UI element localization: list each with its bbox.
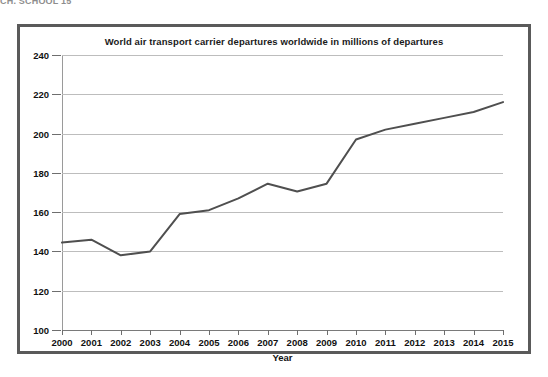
y-tick-160 — [52, 212, 61, 213]
y-axis-label-140: 140 — [33, 246, 49, 257]
series-line-departures — [62, 102, 503, 255]
y-tick-140 — [52, 251, 61, 252]
x-axis-label-2005: 2005 — [198, 337, 219, 348]
plot-area: 100120140160180200220240 200020012002200… — [62, 55, 503, 330]
x-axis-label-2002: 2002 — [110, 337, 131, 348]
x-axis-label-2003: 2003 — [140, 337, 161, 348]
y-tick-180 — [52, 173, 61, 174]
y-axis-label-160: 160 — [33, 207, 49, 218]
x-tick-2013 — [444, 330, 445, 335]
x-axis-label-2015: 2015 — [492, 337, 513, 348]
y-tick-240 — [52, 55, 61, 56]
y-tick-120 — [52, 291, 61, 292]
x-tick-2000 — [62, 330, 63, 335]
x-axis-label-2012: 2012 — [404, 337, 425, 348]
x-tick-2006 — [238, 330, 239, 335]
y-axis-label-120: 120 — [33, 285, 49, 296]
x-axis-label-2000: 2000 — [51, 337, 72, 348]
x-tick-2008 — [297, 330, 298, 335]
x-tick-2001 — [91, 330, 92, 335]
x-tick-2014 — [474, 330, 475, 335]
x-axis-title: Year — [62, 352, 503, 363]
gridline-100 — [62, 330, 503, 331]
top-caption: CH. SCHOOL 15 — [0, 0, 120, 7]
x-tick-2010 — [356, 330, 357, 335]
x-tick-2005 — [209, 330, 210, 335]
chart-figure-frame: World air transport carrier departures w… — [17, 24, 531, 354]
x-axis-label-2004: 2004 — [169, 337, 190, 348]
x-axis-label-2010: 2010 — [345, 337, 366, 348]
data-series-line — [62, 55, 503, 330]
x-axis-label-2008: 2008 — [287, 337, 308, 348]
y-axis-label-240: 240 — [33, 50, 49, 61]
x-tick-2002 — [121, 330, 122, 335]
x-tick-2011 — [385, 330, 386, 335]
x-axis-label-2009: 2009 — [316, 337, 337, 348]
y-axis-label-220: 220 — [33, 89, 49, 100]
y-axis-label-100: 100 — [33, 325, 49, 336]
chart-title: World air transport carrier departures w… — [20, 36, 528, 47]
y-tick-100 — [52, 330, 61, 331]
x-tick-2007 — [268, 330, 269, 335]
y-tick-200 — [52, 134, 61, 135]
x-tick-2015 — [503, 330, 504, 335]
y-tick-220 — [52, 94, 61, 95]
x-tick-2009 — [327, 330, 328, 335]
x-axis-label-2001: 2001 — [81, 337, 102, 348]
y-axis-label-200: 200 — [33, 128, 49, 139]
x-axis-label-2014: 2014 — [463, 337, 484, 348]
x-tick-2003 — [150, 330, 151, 335]
x-axis-label-2011: 2011 — [375, 337, 396, 348]
x-tick-2012 — [415, 330, 416, 335]
x-axis-label-2013: 2013 — [434, 337, 455, 348]
x-axis-label-2007: 2007 — [257, 337, 278, 348]
x-tick-2004 — [180, 330, 181, 335]
x-axis-label-2006: 2006 — [228, 337, 249, 348]
y-axis-label-180: 180 — [33, 167, 49, 178]
